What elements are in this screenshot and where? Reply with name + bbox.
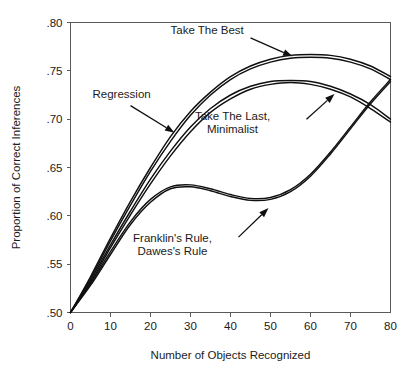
annotation-arrow-head xyxy=(165,125,175,133)
annotation-label: Take The Last,Minimalist xyxy=(195,110,270,135)
annotation-regression: Regression xyxy=(93,88,175,133)
axis-spine-left-bottom xyxy=(71,23,391,313)
x-tick-label: 10 xyxy=(104,320,117,332)
annotation-label-line: Take The Last, xyxy=(195,110,270,122)
annotation-label-line: Dawes's Rule xyxy=(138,245,208,257)
y-axis-title: Proportion of Correct Inferences xyxy=(10,85,22,249)
y-axis-ticks: .50.55.60.65.70.75.80 xyxy=(47,17,71,319)
annotation-arrow-head xyxy=(282,49,292,56)
annotation-take-the-last-minimalist: Take The Last,Minimalist xyxy=(195,94,335,135)
x-tick-label: 40 xyxy=(224,320,237,332)
x-tick-label: 20 xyxy=(144,320,157,332)
y-tick-label: .60 xyxy=(47,210,63,222)
x-tick-label: 80 xyxy=(384,320,397,332)
x-tick-label: 0 xyxy=(67,320,73,332)
annotation-arrow-shaft xyxy=(307,100,328,119)
x-tick-label: 70 xyxy=(344,320,357,332)
annotation-take-the-best: Take The Best xyxy=(171,24,293,56)
annotation-arrow-shaft xyxy=(239,215,262,237)
annotation-label: Regression xyxy=(93,88,151,100)
annotation-franklins-dawess-rule: Franklin's Rule,Dawes's Rule xyxy=(133,208,268,257)
line-chart: .50.55.60.65.70.75.80 01020304050607080 … xyxy=(0,0,415,373)
annotation-label-line: Franklin's Rule, xyxy=(133,232,212,244)
annotation-label: Franklin's Rule,Dawes's Rule xyxy=(133,232,212,257)
annotation-arrow-shaft xyxy=(251,38,284,53)
chart-figure: .50.55.60.65.70.75.80 01020304050607080 … xyxy=(0,0,415,373)
annotation-label-line: Minimalist xyxy=(207,123,259,135)
y-tick-label: .50 xyxy=(47,307,63,319)
y-tick-label: .55 xyxy=(47,258,63,270)
y-tick-label: .70 xyxy=(47,113,63,125)
x-tick-label: 60 xyxy=(304,320,317,332)
x-tick-label: 30 xyxy=(184,320,197,332)
annotation-label: Take The Best xyxy=(171,24,245,36)
chart-axes xyxy=(71,23,391,313)
annotation-label-line: Take The Best xyxy=(171,24,245,36)
x-axis-title: Number of Objects Recognized xyxy=(151,349,311,361)
annotation-label-line: Regression xyxy=(93,88,151,100)
x-axis-ticks: 01020304050607080 xyxy=(67,313,397,332)
y-tick-label: .75 xyxy=(47,65,63,77)
y-tick-label: .65 xyxy=(47,162,63,174)
chart-annotations: Take The BestRegressionTake The Last,Min… xyxy=(93,24,335,257)
annotation-arrow-shaft xyxy=(131,106,167,128)
y-tick-label: .80 xyxy=(47,17,63,29)
x-tick-label: 50 xyxy=(264,320,277,332)
axis-frame-top-right xyxy=(71,23,391,313)
